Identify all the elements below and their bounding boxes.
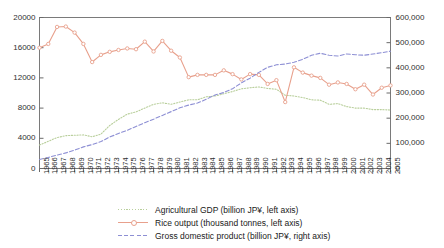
series-marker-1 <box>108 50 111 53</box>
x-axis-tick-label: 1973 <box>113 157 121 174</box>
series-marker-1 <box>55 25 58 28</box>
series-marker-1 <box>178 56 181 59</box>
series-marker-1 <box>152 50 155 53</box>
x-axis-tick-label: 1994 <box>297 157 305 174</box>
x-axis-tick-label: 1972 <box>104 157 112 174</box>
series-marker-1 <box>213 73 216 76</box>
series-marker-1 <box>292 66 295 69</box>
x-axis-tick-label: 1982 <box>192 157 200 174</box>
series-marker-1 <box>380 86 383 89</box>
series-marker-1 <box>354 88 357 91</box>
left-axis-tick-label: 0 <box>31 164 35 173</box>
right-axis-tick-label: 500,000 <box>396 38 425 47</box>
series-marker-1 <box>362 83 365 86</box>
series-marker-1 <box>38 46 41 49</box>
x-axis-tick-label: 1999 <box>341 157 349 174</box>
x-axis-tick-label: 1969 <box>78 157 86 174</box>
series-marker-1 <box>284 100 287 103</box>
series-marker-1 <box>240 78 243 81</box>
plot-frame <box>40 18 391 169</box>
x-axis-tick-label: 2004 <box>385 157 393 174</box>
left-axis-tick-label: 4000 <box>18 133 36 142</box>
legend-swatch-icon <box>118 204 148 215</box>
x-axis-tick-label: 1990 <box>262 157 270 174</box>
series-marker-1 <box>143 40 146 43</box>
x-axis-tick-label: 1995 <box>306 157 314 174</box>
legend-swatch-icon <box>118 217 148 228</box>
series-marker-1 <box>64 25 67 28</box>
legend-item-2: Gross domestic product (billion JP¥, rig… <box>118 229 418 242</box>
x-axis-tick-label: 2003 <box>376 157 384 174</box>
legend-item-1: Rice output (thousand tonnes, left axis) <box>118 216 418 229</box>
left-axis-tick-label: 16000 <box>13 43 35 52</box>
series-marker-1 <box>90 60 93 63</box>
series-marker-1 <box>389 84 392 87</box>
series-line-1 <box>40 27 391 103</box>
series-marker-1 <box>310 74 313 77</box>
series-marker-1 <box>169 49 172 52</box>
legend-label: Rice output (thousand tonnes, left axis) <box>148 218 302 228</box>
x-axis-tick-label: 2005 <box>394 157 402 174</box>
series-marker-1 <box>117 48 120 51</box>
right-axis-tick-label: 100,000 <box>396 138 425 147</box>
series-marker-1 <box>73 31 76 34</box>
x-axis-tick-label: 1991 <box>271 157 279 174</box>
right-axis-tick-label: 300,000 <box>396 88 425 97</box>
x-axis-tick-label: 1987 <box>236 157 244 174</box>
series-marker-1 <box>126 47 129 50</box>
series-marker-1 <box>371 93 374 96</box>
series-marker-1 <box>82 42 85 45</box>
series-marker-1 <box>196 73 199 76</box>
series-marker-1 <box>327 83 330 86</box>
series-marker-1 <box>319 76 322 79</box>
legend-item-0: Agricultural GDP (billion JP¥, left axis… <box>118 203 418 216</box>
series-marker-1 <box>187 75 190 78</box>
series-line-0 <box>40 87 391 145</box>
x-axis-tick-label: 1985 <box>218 157 226 174</box>
chart-legend: Agricultural GDP (billion JP¥, left axis… <box>118 203 418 242</box>
x-axis-tick-label: 1968 <box>69 157 77 174</box>
legend-label: Agricultural GDP (billion JP¥, left axis… <box>148 205 298 215</box>
series-marker-1 <box>336 81 339 84</box>
left-axis-tick-label: 12000 <box>13 73 35 82</box>
series-marker-1 <box>222 69 225 72</box>
series-marker-1 <box>205 73 208 76</box>
x-axis-tick-label: 1986 <box>227 157 235 174</box>
legend-marker-icon <box>131 220 137 226</box>
legend-swatch-icon <box>118 230 148 241</box>
x-axis-tick-label: 2000 <box>350 157 358 174</box>
left-axis-tick-label: 8000 <box>18 103 36 112</box>
series-marker-1 <box>99 53 102 56</box>
x-axis-tick-label: 1981 <box>183 157 191 174</box>
left-axis-tick-label: 20000 <box>13 13 35 22</box>
series-marker-1 <box>248 72 251 75</box>
series-marker-1 <box>47 42 50 45</box>
series-marker-1 <box>275 78 278 81</box>
right-axis-tick-label: 200,000 <box>396 113 425 122</box>
x-axis-tick-label: 1996 <box>315 157 323 174</box>
series-line-2 <box>40 51 391 159</box>
series-marker-1 <box>231 72 234 75</box>
legend-label: Gross domestic product (billion JP¥, rig… <box>148 231 330 241</box>
series-marker-1 <box>301 71 304 74</box>
series-marker-1 <box>134 48 137 51</box>
series-marker-1 <box>266 82 269 85</box>
x-axis-tick-label: 1977 <box>148 157 156 174</box>
series-marker-1 <box>161 39 164 42</box>
series-marker-1 <box>345 82 348 85</box>
chart-container: 040008000120001600020000 0100,000200,000… <box>0 0 444 248</box>
right-axis-tick-label: 600,000 <box>396 13 425 22</box>
x-axis-tick-label: 1978 <box>157 157 165 174</box>
right-axis-tick-label: 400,000 <box>396 63 425 72</box>
